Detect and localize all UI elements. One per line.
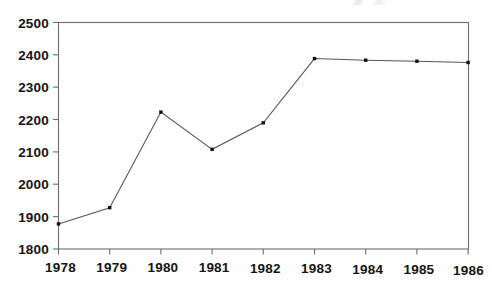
series-line-path	[59, 59, 469, 224]
x-axis-label-1986: 1986	[453, 263, 484, 278]
scan-artifact	[352, 0, 388, 5]
y-axis-label-2100: 2100	[18, 145, 49, 160]
x-axis-ticks	[59, 249, 469, 255]
data-point-1984	[364, 59, 367, 62]
chart-plot-area: 1800 1900 2000 2100 2200 2300 2400 2500 …	[0, 0, 494, 292]
y-axis-labels: 1800 1900 2000 2100 2200 2300 2400 2500	[18, 16, 49, 258]
x-axis-label-1985: 1985	[403, 262, 434, 277]
x-axis-labels: 1978 1979 1980 1981 1982 1983 1984 1985 …	[45, 260, 484, 279]
x-axis-label-1979: 1979	[96, 260, 127, 275]
y-axis-label-2500: 2500	[18, 16, 49, 31]
x-axis-label-1978: 1978	[45, 260, 76, 275]
plot-frame	[59, 23, 469, 250]
y-axis-label-2000: 2000	[18, 177, 49, 192]
series-markers	[57, 57, 470, 226]
data-point-1982	[262, 121, 265, 124]
line-chart-figure: 1800 1900 2000 2100 2200 2300 2400 2500 …	[0, 0, 494, 292]
x-axis-label-1984: 1984	[352, 262, 383, 277]
y-axis-label-1800: 1800	[18, 242, 49, 257]
x-axis-label-1982: 1982	[250, 261, 281, 276]
x-axis-label-1981: 1981	[199, 260, 230, 275]
data-point-1985	[415, 60, 418, 63]
x-axis-label-1983: 1983	[301, 261, 332, 276]
y-axis-label-2300: 2300	[18, 80, 49, 95]
data-point-1979	[108, 206, 111, 209]
data-point-1981	[210, 148, 213, 151]
y-axis-label-2200: 2200	[18, 113, 49, 128]
data-point-1978	[57, 222, 60, 225]
x-axis-label-1980: 1980	[147, 260, 178, 275]
data-point-1986	[466, 61, 469, 64]
y-axis-label-2400: 2400	[18, 48, 49, 63]
data-point-1980	[159, 110, 162, 113]
y-axis-label-1900: 1900	[18, 210, 49, 225]
data-point-1983	[313, 57, 316, 60]
y-axis-ticks	[53, 23, 59, 250]
